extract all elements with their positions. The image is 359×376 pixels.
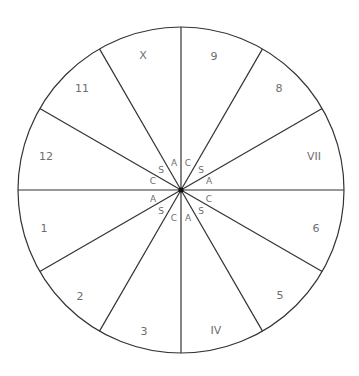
segment-label: 6 [313,222,320,235]
inner-letter-label: A [185,213,192,223]
segment-label: 9 [211,50,218,63]
segment-label: 1 [41,222,48,235]
spoke-line [181,190,263,331]
spoke-line [100,190,182,331]
inner-letter-label: C [185,158,191,168]
spoke-line [40,190,181,272]
dial-diagram: 98VII65IV3211211X ACSACSACSACS [0,0,359,376]
inner-letter-label: S [198,165,204,175]
spoke-line [181,109,322,191]
segment-label: 2 [77,290,84,303]
spoke-line [100,49,182,190]
inner-letter-label: A [171,158,178,168]
inner-letter-label: C [171,213,177,223]
segment-label: VII [307,150,321,163]
inner-letter-label: A [150,194,157,204]
inner-letter-label: S [158,206,164,216]
segment-labels: 98VII65IV3211211X [39,49,321,338]
segment-label: IV [211,324,222,337]
segment-label: 12 [39,150,53,163]
segment-label: 8 [276,82,283,95]
inner-letter-label: A [206,176,213,186]
inner-letter-label: S [198,206,204,216]
segment-label: 11 [75,82,89,95]
segment-label: X [139,49,147,62]
segment-label: 5 [277,289,284,302]
spoke-line [40,109,181,191]
inner-letter-label: S [158,165,164,175]
spoke-line [181,190,322,272]
spoke-line [181,49,263,190]
center-dot [178,187,183,192]
segment-label: 3 [141,325,148,338]
inner-letter-label: C [206,194,212,204]
inner-letter-label: C [150,176,156,186]
